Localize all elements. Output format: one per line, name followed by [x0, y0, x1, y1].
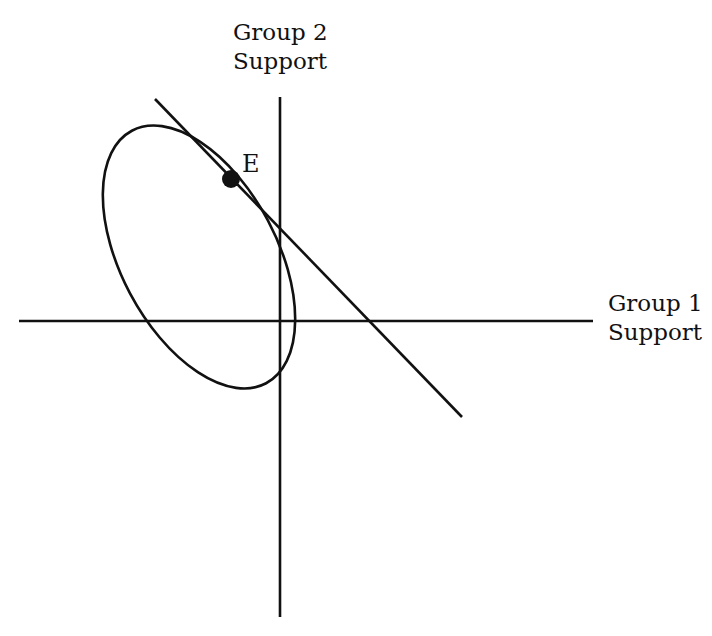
x-axis-label-line1: Group 1	[608, 289, 703, 318]
y-axis-label-line1: Group 2	[233, 18, 328, 47]
y-axis-label: Group 2 Support	[233, 18, 328, 76]
tangent-line	[155, 99, 462, 417]
y-axis-label-line2: Support	[233, 47, 328, 76]
x-axis-label-line2: Support	[608, 318, 703, 347]
x-axis-label: Group 1 Support	[608, 289, 703, 347]
equilibrium-point-E	[222, 170, 240, 188]
diagram-canvas	[0, 0, 712, 636]
point-label-E: E	[242, 150, 260, 179]
